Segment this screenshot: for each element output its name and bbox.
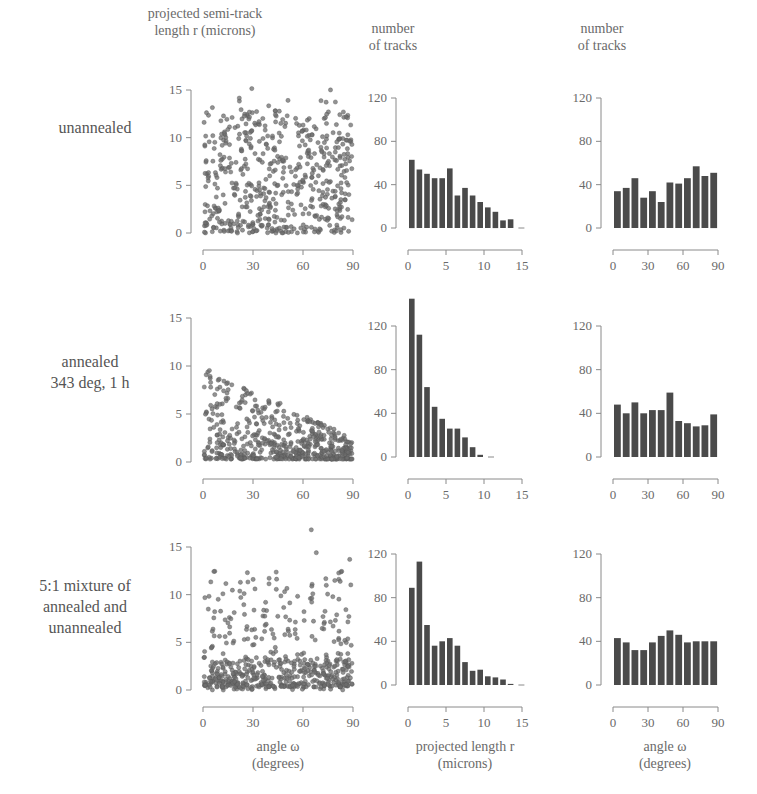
histogram-bar bbox=[667, 183, 674, 229]
scatter-plot: 0510150306090 bbox=[169, 82, 360, 273]
histogram-bar bbox=[424, 387, 430, 457]
histogram-bar bbox=[640, 198, 647, 228]
histogram-bar bbox=[710, 173, 717, 228]
histogram-bar bbox=[470, 671, 476, 685]
histogram-bar bbox=[409, 160, 415, 228]
histogram-bar bbox=[614, 191, 621, 228]
svg-text:0: 0 bbox=[381, 677, 388, 692]
svg-text:0: 0 bbox=[381, 220, 388, 235]
svg-text:0: 0 bbox=[200, 715, 207, 730]
svg-text:0: 0 bbox=[405, 715, 412, 730]
histogram-bar bbox=[649, 642, 656, 685]
svg-text:90: 90 bbox=[712, 258, 725, 273]
histogram-bar bbox=[508, 219, 514, 228]
histogram-bar bbox=[710, 641, 717, 685]
histogram-bar bbox=[417, 335, 423, 457]
svg-text:0: 0 bbox=[610, 487, 617, 502]
histogram-bar bbox=[649, 191, 656, 228]
svg-text:120: 120 bbox=[573, 90, 593, 105]
svg-text:60: 60 bbox=[677, 487, 690, 502]
histogram-bar bbox=[614, 638, 621, 685]
histogram-bar bbox=[439, 419, 445, 457]
svg-text:15: 15 bbox=[169, 539, 182, 554]
svg-text:120: 120 bbox=[368, 90, 388, 105]
chart-canvas: 0510150306090040801200510150408012003060… bbox=[0, 0, 757, 794]
svg-text:120: 120 bbox=[368, 546, 388, 561]
scatter-points bbox=[202, 528, 354, 692]
svg-text:5: 5 bbox=[443, 715, 450, 730]
histogram-bar bbox=[432, 407, 438, 457]
svg-text:0: 0 bbox=[610, 715, 617, 730]
histogram-angle: 040801200306090 bbox=[573, 90, 725, 273]
svg-text:40: 40 bbox=[374, 633, 387, 648]
histogram-bar bbox=[500, 220, 506, 228]
svg-text:15: 15 bbox=[169, 82, 182, 97]
histogram-bar bbox=[640, 413, 647, 457]
svg-text:60: 60 bbox=[297, 258, 310, 273]
svg-text:5: 5 bbox=[176, 177, 183, 192]
histogram-bar bbox=[658, 636, 665, 685]
svg-text:80: 80 bbox=[579, 362, 592, 377]
histogram-bar bbox=[462, 437, 468, 457]
histogram-bar bbox=[667, 393, 674, 457]
histogram-bar bbox=[439, 641, 445, 685]
svg-text:15: 15 bbox=[516, 258, 529, 273]
svg-text:10: 10 bbox=[169, 358, 182, 373]
histogram-bar bbox=[424, 174, 430, 228]
svg-text:0: 0 bbox=[176, 454, 183, 469]
svg-text:0: 0 bbox=[610, 258, 617, 273]
histogram-bar bbox=[409, 588, 415, 685]
histogram-bar bbox=[447, 638, 453, 685]
scatter-points bbox=[202, 368, 354, 461]
histogram-bar bbox=[485, 207, 491, 228]
histogram-bar bbox=[485, 676, 491, 685]
svg-text:60: 60 bbox=[677, 715, 690, 730]
svg-text:80: 80 bbox=[374, 133, 387, 148]
histogram-bar bbox=[693, 166, 700, 228]
histogram-bar bbox=[409, 299, 415, 457]
svg-text:80: 80 bbox=[374, 590, 387, 605]
histogram-bar bbox=[508, 684, 514, 685]
histogram-bar bbox=[649, 410, 656, 457]
svg-text:0: 0 bbox=[200, 258, 207, 273]
svg-text:30: 30 bbox=[642, 258, 655, 273]
svg-text:90: 90 bbox=[347, 487, 360, 502]
histogram-bar bbox=[632, 650, 639, 685]
svg-text:40: 40 bbox=[579, 177, 592, 192]
svg-text:60: 60 bbox=[297, 487, 310, 502]
svg-text:80: 80 bbox=[579, 133, 592, 148]
svg-text:0: 0 bbox=[176, 225, 183, 240]
histogram-bar bbox=[462, 662, 468, 685]
svg-text:15: 15 bbox=[516, 487, 529, 502]
svg-text:40: 40 bbox=[374, 177, 387, 192]
scatter-points bbox=[202, 87, 354, 236]
svg-text:60: 60 bbox=[297, 715, 310, 730]
svg-text:40: 40 bbox=[579, 633, 592, 648]
svg-text:0: 0 bbox=[176, 682, 183, 697]
histogram-bar bbox=[632, 178, 639, 228]
histogram-bar bbox=[667, 630, 674, 685]
svg-text:30: 30 bbox=[247, 258, 260, 273]
svg-text:0: 0 bbox=[381, 449, 388, 464]
histogram-bar bbox=[710, 414, 717, 457]
svg-text:120: 120 bbox=[573, 546, 593, 561]
histogram-bar bbox=[623, 642, 630, 685]
svg-text:120: 120 bbox=[573, 318, 593, 333]
svg-text:0: 0 bbox=[405, 487, 412, 502]
histogram-bar bbox=[658, 202, 665, 228]
histogram-bar bbox=[693, 641, 700, 685]
histogram-bar bbox=[702, 176, 709, 228]
svg-text:10: 10 bbox=[169, 587, 182, 602]
histogram-bar bbox=[417, 170, 423, 229]
svg-text:10: 10 bbox=[478, 715, 491, 730]
histogram-bar bbox=[614, 405, 621, 457]
histogram-bar bbox=[632, 402, 639, 457]
histogram-angle: 040801200306090 bbox=[573, 546, 725, 730]
histogram-length: 04080120051015 bbox=[368, 90, 529, 273]
svg-text:5: 5 bbox=[176, 406, 183, 421]
histogram-bar bbox=[684, 642, 691, 685]
histogram-length: 04080120051015 bbox=[368, 546, 529, 730]
svg-text:0: 0 bbox=[586, 449, 593, 464]
svg-text:30: 30 bbox=[642, 715, 655, 730]
histogram-bar bbox=[447, 429, 453, 457]
